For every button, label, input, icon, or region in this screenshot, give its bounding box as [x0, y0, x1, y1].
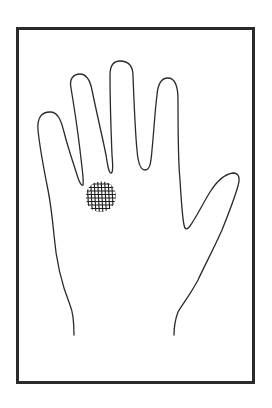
hand-illustration: Hand outline Hatched spot — [0, 0, 272, 408]
hand-drawing — [0, 0, 272, 408]
hatched-spot-icon — [80, 178, 125, 216]
hand-outline-icon — [38, 61, 239, 335]
